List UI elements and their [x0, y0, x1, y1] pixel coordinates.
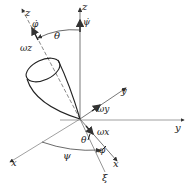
label-y-fixed: y — [174, 122, 181, 133]
label-phi-dot: φ̇ — [32, 19, 39, 29]
label-z-fixed: z — [81, 1, 88, 12]
label-theta-top: θ — [54, 30, 60, 41]
euler-angle-diagram: z ψ̇ z φ̇ ωz θ y ωy y x ψ θ φ ωx x ξ — [0, 0, 189, 187]
label-y-body: y — [120, 85, 127, 96]
label-theta-bottom: θ — [81, 135, 87, 145]
label-psi-bottom: ψ — [63, 150, 71, 161]
label-x-body: x — [113, 158, 119, 169]
label-phi-bottom: φ — [99, 145, 106, 155]
spinning-cone — [22, 53, 80, 119]
label-omega-y: ωy — [97, 104, 110, 114]
omega-x-arrow — [86, 126, 93, 134]
label-xi: ξ — [102, 172, 108, 183]
label-x-fixed: x — [11, 157, 17, 168]
label-z-body: z — [24, 7, 31, 18]
phi-dot-arrow — [32, 28, 38, 40]
label-psi-dot: ψ̇ — [83, 17, 91, 27]
label-omega-z: ωz — [20, 43, 32, 53]
label-omega-x: ωx — [97, 127, 109, 137]
z-body-axis — [22, 9, 80, 119]
